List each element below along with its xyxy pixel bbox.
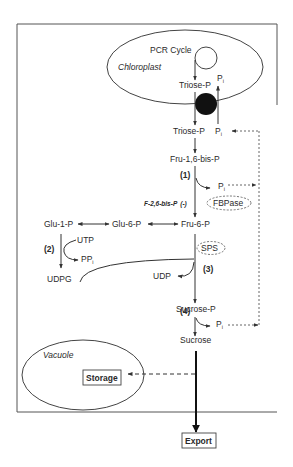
- glu-6-p: Glu-6-P: [112, 219, 142, 229]
- sucrose: Sucrose: [180, 335, 211, 345]
- step-4-label-visible: (4): [180, 306, 191, 316]
- fru-16-bisp: Fru-1,6-bis-P: [170, 154, 220, 164]
- export-label: Export: [185, 436, 212, 446]
- step-2-label: (2): [44, 244, 55, 254]
- udpg-label: UDPG: [47, 274, 72, 284]
- pi-chloroplast: Pi: [217, 73, 224, 84]
- sucrose-pathway-diagram: Chloroplast PCR Cycle Triose-P Pi Triose…: [0, 0, 293, 467]
- pcr-cycle-icon: [195, 47, 217, 69]
- pi-step1: Pi: [218, 181, 225, 192]
- step-1-label: (1): [180, 170, 191, 180]
- glu-1-p: Glu-1-P: [44, 219, 74, 229]
- fbpase-label: FBPase: [213, 198, 244, 208]
- sps-label: SPS: [201, 243, 218, 253]
- pcr-cycle-label: PCR Cycle: [150, 45, 192, 55]
- fru-6-p: Fru-6-P: [181, 219, 210, 229]
- step-3-label: (3): [203, 264, 214, 274]
- chloroplast-label: Chloroplast: [118, 62, 162, 72]
- udp-label: UDP: [153, 271, 171, 281]
- storage-label: Storage: [86, 373, 118, 383]
- pi-recycling-path: [228, 131, 259, 325]
- vacuole-label: Vacuole: [43, 350, 74, 360]
- ppi-label: PPi: [81, 254, 94, 265]
- utp-label: UTP: [77, 235, 94, 245]
- triose-p-cytosol: Triose-P: [173, 126, 205, 136]
- f26bp-regulator: F-2,6-bis-P(-): [144, 200, 187, 208]
- pi-cytosol: Pi: [215, 126, 222, 137]
- phosphate-translocator-icon: [195, 93, 217, 115]
- triose-p-chloroplast: Triose-P: [179, 80, 211, 90]
- pi-step4: Pi: [216, 319, 223, 330]
